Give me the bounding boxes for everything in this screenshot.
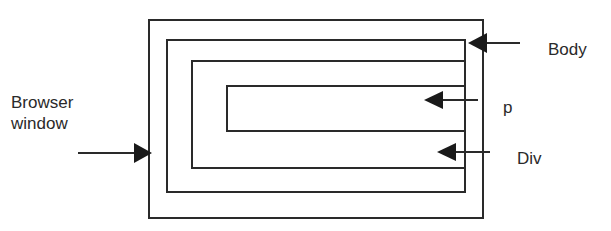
p-arrow-icon — [424, 91, 478, 109]
browser-window-label-line2: window — [11, 113, 73, 134]
p-label: p — [503, 97, 512, 118]
div-label: Div — [517, 148, 542, 169]
body-label: Body — [548, 39, 587, 60]
browser-window-arrow-icon — [78, 143, 152, 163]
browser-window-label: Browser window — [11, 92, 73, 134]
body-arrow-icon — [468, 33, 520, 53]
arrows-layer — [0, 0, 611, 231]
div-arrow-icon — [437, 143, 490, 161]
browser-window-label-line1: Browser — [11, 92, 73, 113]
